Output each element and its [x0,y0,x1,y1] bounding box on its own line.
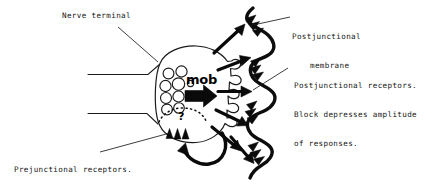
prejunctional-receptors-label-line1: Prejunctional receptors. [14,165,132,175]
neuromuscular-junction-figure: Nerve terminal Postjunctional membrane P… [0,0,435,190]
prejunctional-receptors [166,129,189,140]
unknown-pathway-label: ? [178,110,184,123]
vesicle [163,68,174,79]
postjunctional-receptors-label: Postjunctional receptors. Block depresse… [294,62,417,168]
mobilization-label: mob [186,72,217,87]
postjunctional-receptors-label-line1: Postjunctional receptors. [294,81,417,91]
nerve-terminal-label: Nerve terminal [62,11,131,21]
vesicle [172,78,184,90]
prejunctional-receptors-label: Prejunctional receptors. Block produces … [14,146,132,190]
postjunctional-receptors-label-line3: of responses. [294,139,417,149]
postjunctional-receptors-label-line2: Block depresses amplitude [294,110,417,120]
postjunctional-membrane-leader-line [251,17,290,26]
axon-line-upper [88,64,160,75]
release-arrow [231,137,254,164]
nerve-terminal-leader-line [118,27,158,62]
vesicle [160,80,171,91]
vesicle [161,93,172,104]
feedback-arrow-head [178,143,190,156]
vesicle [162,104,173,115]
vesicle [173,91,184,102]
postjunctional-receptor-tooth [248,142,259,152]
release-arrow [214,24,245,53]
postjunctional-membrane-label-line1: Postjunctional [292,32,392,42]
axon-lines [88,64,160,124]
axon-line-lower [88,114,158,125]
